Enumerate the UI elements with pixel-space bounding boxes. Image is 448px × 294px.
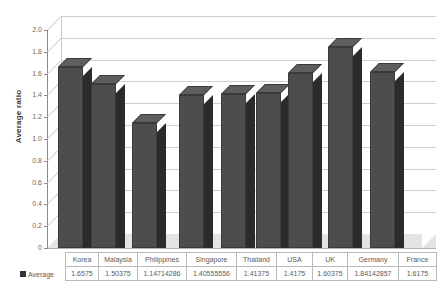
y-axis-tick-mark [44,226,48,227]
bar-front-face [288,73,313,248]
bar-side-face [116,84,125,248]
table-value-cell: 1.50375 [99,267,138,281]
table-header-cell: Malaysia [99,253,138,267]
plot-area: 00.20.40.60.81.01.21.41.61.82.0 [0,0,448,294]
bar-france[interactable] [370,72,395,248]
legend-marker-icon [20,271,26,277]
y-axis-tick-label: 1.6 [0,70,42,77]
y-axis-tick-label: 2.0 [0,26,42,33]
table-header-cell: Thailand [237,253,277,267]
bar-front-face [91,84,116,248]
y-axis-tick-mark [44,204,48,205]
y-axis-tick-label: 1.2 [0,113,42,120]
table-header-cell: UK [313,253,348,267]
gridline-depth [47,16,62,31]
gridline [61,60,436,61]
y-axis-tick-label: 0.8 [0,157,42,164]
y-axis-tick-mark [44,183,48,184]
bar-front-face [370,72,395,248]
table-header-cell: Philippines [138,253,187,267]
y-axis-tick-mark [44,117,48,118]
table-header-cell: France [399,253,437,267]
y-axis-tick-label: 1.4 [0,91,42,98]
bar-side-face [157,123,166,248]
table-header-cell: Korea [66,253,99,267]
table-header-cell: USA [277,253,313,267]
bar-front-face [256,93,281,248]
table-value-cell: 1.6575 [66,267,99,281]
bar-side-face [395,72,404,248]
y-axis-tick-mark [44,30,48,31]
table-row: Average 1.65751.503751.147142861.4055555… [18,267,437,281]
chart-container: Average ratio 00.20.40.60.81.01.21.41.61… [0,0,448,294]
table-value-cell: 1.4175 [277,267,313,281]
bar-front-face [179,95,204,248]
y-axis-tick-label: 1.0 [0,135,42,142]
bar-malaysia[interactable] [91,84,116,248]
table-value-cell: 1.41375 [237,267,277,281]
gridline [61,16,436,17]
legend-cell: Average [18,267,66,281]
table-value-cell: 1.60375 [313,267,348,281]
chart-floor-edge [47,248,436,249]
table-value-cell: 1.40555556 [187,267,237,281]
gridline-depth [47,38,62,53]
bar-thailand[interactable] [221,94,246,248]
y-axis-tick-mark [44,95,48,96]
y-axis-tick-mark [44,139,48,140]
y-axis-tick-mark [44,248,48,249]
table-header-row: KoreaMalaysiaPhilippinesSingaporeThailan… [18,253,437,267]
y-axis-tick-mark [44,161,48,162]
y-axis-tick-mark [44,74,48,75]
y-axis-tick-label: 1.8 [0,48,42,55]
y-axis-tick-label: 0.6 [0,179,42,186]
y-axis-tick-label: 0.4 [0,200,42,207]
bar-side-face [353,47,362,248]
table-value-cell: 1.14714286 [138,267,187,281]
bar-philippines[interactable] [132,123,157,248]
bar-germany[interactable] [328,47,353,248]
bar-front-face [58,67,83,248]
y-axis-tick-label: 0.2 [0,222,42,229]
bar-singapore[interactable] [179,95,204,248]
table-value-cell: 1.6175 [399,267,437,281]
table-value-cell: 1.84142857 [348,267,399,281]
bar-front-face [221,94,246,248]
data-table: KoreaMalaysiaPhilippinesSingaporeThailan… [18,252,437,281]
bar-side-face [246,94,255,248]
y-axis-tick-label: 0 [0,244,42,251]
table-header-cell: Singapore [187,253,237,267]
bar-front-face [132,123,157,248]
bar-usa[interactable] [256,93,281,248]
table-header-cell: Germany [348,253,399,267]
bar-korea[interactable] [58,67,83,248]
y-axis-tick-mark [44,52,48,53]
table-corner-cell [18,253,66,267]
bar-side-face [204,95,213,248]
bar-front-face [328,47,353,248]
gridline [61,38,436,39]
bar-side-face [313,73,322,248]
legend-label: Average [28,270,54,277]
bar-uk[interactable] [288,73,313,248]
